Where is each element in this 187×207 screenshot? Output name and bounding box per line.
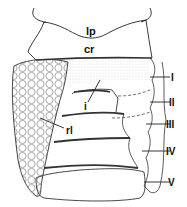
diagram: lp cr i rl I II III IV V: [0, 0, 187, 207]
label-seg-iv: IV: [166, 146, 176, 157]
label-rl: rl: [66, 125, 73, 136]
cellular-region-rl: [12, 59, 68, 196]
label-i: i: [84, 101, 87, 112]
label-seg-ii: II: [169, 97, 175, 108]
segment-bands: [44, 113, 138, 168]
label-seg-iii: III: [166, 119, 175, 130]
label-seg-v: V: [168, 177, 175, 188]
segment-v-body: [36, 169, 145, 201]
label-seg-i: I: [171, 72, 174, 83]
inner-plate-i: [72, 89, 118, 112]
label-lp: lp: [86, 25, 96, 37]
label-cr: cr: [84, 43, 95, 55]
